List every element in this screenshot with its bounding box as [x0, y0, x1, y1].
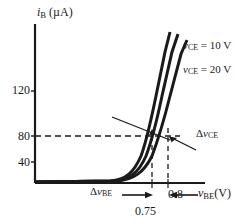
- annotation-delta-vce: ΔvCE: [196, 128, 218, 140]
- x-tick-label-075: 0.75: [135, 205, 156, 217]
- y-tick-label-40: 40: [18, 156, 30, 168]
- annotation-delta-vbe: ΔvBE: [90, 186, 112, 198]
- y-tick-label-80: 80: [18, 130, 30, 142]
- x-tick-label-08: 0.8: [168, 188, 183, 200]
- legend-item-vce-20v: vCE = 20 V: [183, 64, 231, 76]
- curve-vce-20v: [35, 34, 178, 182]
- y-tick-label-120: 120: [12, 84, 30, 96]
- x-axis-label: vBE(V): [198, 187, 231, 200]
- measure-arrow-left-head: [145, 192, 153, 198]
- legend-item-vce-10v: vCE = 10 V: [183, 40, 231, 52]
- figure-transistor-input-characteristics: iB (µA) 120 80 40 0.8 0.75 vBE(V) vCE = …: [0, 0, 249, 224]
- y-axis-label: iB (µA): [37, 6, 73, 19]
